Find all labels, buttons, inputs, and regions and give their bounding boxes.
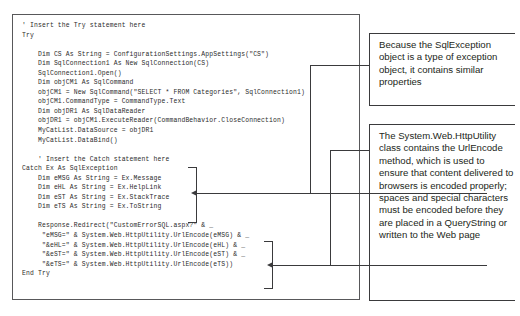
arrow-head-2-icon: [267, 262, 273, 268]
code-line: Try: [22, 31, 357, 41]
leader-line-2-vertical: [330, 150, 331, 266]
code-lines: ' Insert the Try statement hereTry Dim C…: [22, 21, 357, 279]
callout-sql-exception: Because the SqlException object is a typ…: [369, 33, 515, 106]
leader-line-1-vertical: [310, 65, 311, 194]
code-line: Dim SqlConnection1 As New SqlConnection(…: [22, 59, 357, 69]
code-line: Dim objCM1 As SqlCommand: [22, 78, 357, 88]
code-line: [22, 40, 357, 50]
code-line: End Try: [22, 269, 357, 279]
arrow-head-1-icon: [191, 190, 197, 196]
callout-httputility-text: The System.Web.HttpUtility class contain…: [379, 130, 515, 242]
callout-httputility: The System.Web.HttpUtility class contain…: [369, 124, 515, 301]
code-line: Dim objDR1 As SqlDataReader: [22, 107, 357, 117]
code-line: ' Insert the Try statement here: [22, 21, 357, 31]
code-line: "&eHL=" & System.Web.HttpUtility.UrlEnco…: [22, 241, 357, 251]
code-line: MyCatList.DataSource = objDR1: [22, 126, 357, 136]
code-line: objCM1 = New SqlCommand("SELECT * FROM C…: [22, 88, 357, 98]
code-line: MyCatList.DataBind(): [22, 136, 357, 146]
leader-line-2-top: [330, 150, 370, 151]
code-line: SqlConnection1.Open(): [22, 69, 357, 79]
code-listing-box: ' Insert the Try statement hereTry Dim C…: [12, 14, 360, 300]
code-line: Dim CS As String = ConfigurationSettings…: [22, 50, 357, 60]
code-line: [22, 145, 357, 155]
leader-line-1-top: [310, 65, 370, 66]
code-line: ' Insert the Catch statement here: [22, 155, 357, 165]
code-line: objDR1 = objCM1.ExecuteReader(CommandBeh…: [22, 116, 357, 126]
code-line: "eMSG=" & System.Web.HttpUtility.UrlEnco…: [22, 231, 357, 241]
code-line: "&eST=" & System.Web.HttpUtility.UrlEnco…: [22, 250, 357, 260]
code-line: objCM1.CommandType = CommandType.Text: [22, 97, 357, 107]
callout-sql-exception-text: Because the SqlException object is a typ…: [379, 39, 515, 89]
